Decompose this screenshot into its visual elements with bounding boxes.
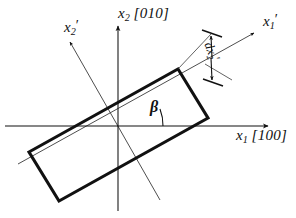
diagram-canvas: x2 [010] x1 [100] x2′ x1′ β dx2′ xyxy=(0,0,296,218)
x1-prime-mark: ′ xyxy=(275,11,278,27)
x1-axis-miller: [100] xyxy=(252,127,288,143)
x1-prime-axis-label: x1′ xyxy=(263,12,278,31)
x1-axis-label: x1 [100] xyxy=(236,128,287,145)
beta-angle-label: β xyxy=(150,99,158,115)
x2-axis-subscript: 2 xyxy=(125,12,130,23)
x1-axis-symbol: x xyxy=(236,127,243,143)
x1-axis-subscript: 1 xyxy=(243,134,248,145)
x2-prime-symbol: x xyxy=(64,19,71,35)
x2-axis-miller: [010] xyxy=(134,5,170,21)
x2-prime-mark: ′ xyxy=(76,17,79,33)
coordinate-system-figure xyxy=(0,0,296,218)
x2-axis-symbol: x xyxy=(118,5,125,21)
x2-prime-axis-label: x2′ xyxy=(64,18,79,37)
x1-prime-symbol: x xyxy=(263,13,270,29)
x2-axis-label: x2 [010] xyxy=(118,6,169,23)
beta-angle-arc xyxy=(160,109,163,126)
